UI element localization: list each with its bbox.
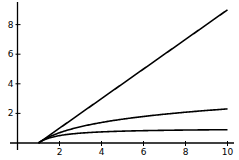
x-tick-label: 4 <box>99 147 105 157</box>
x-tick-label: 10 <box>222 147 234 157</box>
x-tick-label: 2 <box>57 147 63 157</box>
chart-container: 2468102468 <box>0 0 239 160</box>
y-tick-label: 8 <box>8 20 14 30</box>
y-tick-label: 4 <box>8 79 14 89</box>
x-tick-label: 6 <box>141 147 147 157</box>
plot-lines <box>39 10 228 143</box>
y-tick-label: 6 <box>8 49 14 59</box>
line-chart: 2468102468 <box>0 0 239 160</box>
x-tick-label: 8 <box>183 147 189 157</box>
y-tick-label: 2 <box>8 108 14 118</box>
line-series-3 <box>39 130 228 143</box>
line-series-2 <box>39 109 228 143</box>
line-series-1 <box>39 10 228 143</box>
axes: 2468102468 <box>8 2 234 157</box>
